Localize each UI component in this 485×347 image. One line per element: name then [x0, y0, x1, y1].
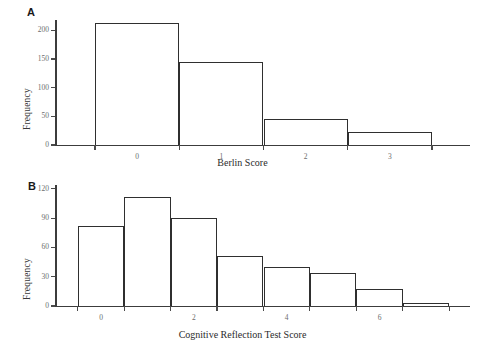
y-axis-line [55, 20, 57, 145]
x-tick [449, 306, 450, 311]
histogram-bar [264, 267, 310, 306]
y-tick-label: 60 [23, 242, 49, 251]
y-tick-label: 0 [23, 140, 49, 149]
histogram-bar [403, 303, 449, 306]
y-tick-label: 150 [23, 54, 49, 63]
x-tick [263, 306, 264, 311]
y-tick [51, 247, 55, 248]
x-tick [431, 145, 432, 150]
histogram-bar [179, 62, 263, 145]
x-tick-label: 4 [267, 313, 307, 322]
x-tick [216, 306, 217, 311]
y-tick-label: 200 [23, 25, 49, 34]
panel-a: A Frequency 0501001502000123 Berlin Scor… [0, 0, 485, 175]
x-tick [263, 145, 264, 150]
histogram-bar [171, 218, 217, 306]
x-tick [402, 306, 403, 311]
x-tick-label: 0 [81, 313, 121, 322]
y-tick [51, 188, 55, 189]
y-tick [51, 276, 55, 277]
panel-a-y-axis-label: Frequency [22, 88, 32, 130]
y-tick-label: 120 [23, 184, 49, 193]
y-axis-line [55, 185, 57, 306]
histogram-bar [78, 226, 124, 306]
panel-a-x-axis-label: Berlin Score [0, 157, 485, 168]
y-tick-label: 30 [23, 272, 49, 281]
panel-b: B Frequency 03060901200246 Cognitive Ref… [0, 172, 485, 347]
x-tick-label: 2 [174, 313, 214, 322]
y-tick [51, 305, 55, 306]
y-tick-label: 90 [23, 213, 49, 222]
panel-a-letter: A [27, 6, 35, 18]
panel-b-x-axis-label: Cognitive Reflection Test Score [0, 329, 485, 340]
histogram-bar [310, 273, 356, 306]
y-tick [51, 58, 55, 59]
x-tick [124, 306, 125, 311]
y-tick [51, 30, 55, 31]
y-tick-label: 0 [23, 301, 49, 310]
histogram-bar [124, 197, 170, 306]
y-tick-label: 50 [23, 111, 49, 120]
figure-container: A Frequency 0501001502000123 Berlin Scor… [0, 0, 485, 347]
histogram-bar [356, 289, 402, 306]
histogram-bar [217, 256, 263, 306]
y-tick [51, 87, 55, 88]
y-tick [51, 144, 55, 145]
x-tick [309, 306, 310, 311]
x-tick [356, 306, 357, 311]
x-tick-label: 6 [360, 313, 400, 322]
x-tick [77, 306, 78, 311]
x-tick [179, 145, 180, 150]
y-tick [51, 116, 55, 117]
x-tick [170, 306, 171, 311]
histogram-bar [348, 132, 432, 145]
histogram-bar [264, 119, 348, 145]
x-tick [347, 145, 348, 150]
y-tick-label: 100 [23, 83, 49, 92]
y-tick [51, 218, 55, 219]
histogram-bar [95, 23, 179, 145]
x-tick [94, 145, 95, 150]
